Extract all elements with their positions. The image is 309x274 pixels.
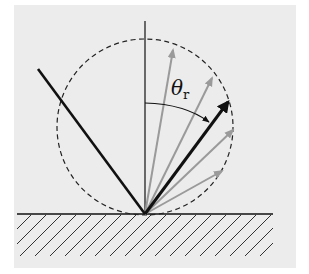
panel-background — [14, 5, 296, 268]
reflection-diagram: θr — [0, 0, 309, 274]
